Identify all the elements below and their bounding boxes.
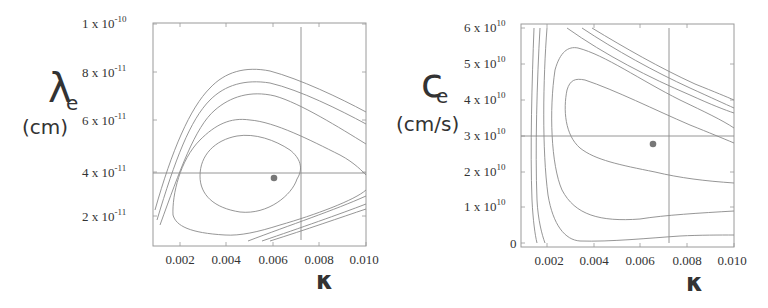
y-tick: 0 <box>510 236 517 251</box>
x-tick: 0.002 <box>534 253 563 268</box>
ylabel-unit: (cm/s) <box>396 112 459 136</box>
x-tick: 0.002 <box>165 252 194 267</box>
x-tick: 0.004 <box>579 253 609 268</box>
y-tick: 2 x 10-11 <box>82 207 126 224</box>
y-ticks <box>521 28 734 243</box>
x-tick: 0.004 <box>211 252 241 267</box>
x-tick: 0.010 <box>349 252 378 267</box>
plot-frame <box>153 23 366 246</box>
x-tick-labels: 0.002 0.004 0.006 0.008 0.010 <box>165 252 378 267</box>
contour-lines <box>155 69 366 241</box>
x-tick: 0.006 <box>625 253 655 268</box>
y-tick: 6 x 10-11 <box>82 111 126 128</box>
x-ticks <box>180 23 366 246</box>
y-tick: 4 x 10-11 <box>82 163 126 180</box>
xlabel: κ <box>686 269 703 297</box>
y-tick: 8 x 10-11 <box>82 63 126 80</box>
y-tick: 5 x 1010 <box>464 54 506 71</box>
best-fit-point <box>271 175 278 182</box>
ylabel-subscript: e <box>436 84 448 108</box>
y-tick: 4 x 1010 <box>464 90 506 107</box>
figure: λ e (cm) 1 x 10-10 8 x 10-11 6 x 10-11 4… <box>0 0 768 308</box>
x-tick: 0.008 <box>304 252 333 267</box>
y-tick: 6 x 1010 <box>464 18 506 35</box>
y-tick: 1 x 1010 <box>464 197 506 214</box>
plot-c-e: c e (cm/s) 6 x 1010 5 x 1010 4 x 1010 3 … <box>396 18 747 297</box>
y-tick: 3 x 1010 <box>464 126 506 143</box>
x-tick: 0.010 <box>717 253 746 268</box>
x-ticks <box>547 24 734 247</box>
y-tick: 2 x 1010 <box>464 162 506 179</box>
x-tick: 0.008 <box>672 253 701 268</box>
xlabel: κ <box>316 267 333 295</box>
y-tick-labels: 6 x 1010 5 x 1010 4 x 1010 3 x 1010 2 x … <box>464 18 517 251</box>
x-tick-labels: 0.002 0.004 0.006 0.008 0.010 <box>534 253 746 268</box>
plot-lambda-e: λ e (cm) 1 x 10-10 8 x 10-11 6 x 10-11 4… <box>22 14 379 295</box>
ylabel-unit: (cm) <box>22 115 68 139</box>
x-tick: 0.006 <box>258 252 288 267</box>
contour-lines <box>531 28 734 243</box>
y-tick-labels: 1 x 10-10 8 x 10-11 6 x 10-11 4 x 10-11 … <box>82 14 127 224</box>
y-ticks <box>153 24 366 216</box>
ylabel-subscript: e <box>66 91 78 115</box>
y-tick: 1 x 10-10 <box>82 14 127 31</box>
best-fit-point <box>650 141 657 148</box>
